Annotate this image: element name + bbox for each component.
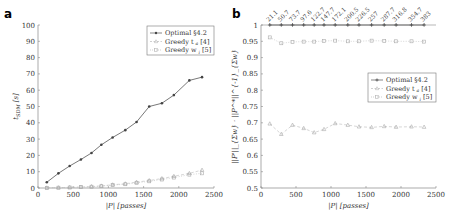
data-point [200, 168, 204, 171]
data-point [422, 125, 426, 128]
y-tick-label: 0.55 [242, 168, 258, 176]
x-tick-label: 2500 [205, 191, 223, 199]
top-tick-label: 21.1 [265, 8, 279, 22]
y-tick-label: 100 [22, 22, 35, 30]
x-tick-label: 1500 [135, 191, 153, 199]
y-tick-label: 70 [26, 70, 35, 78]
y-tick-label: 0 [31, 185, 35, 193]
y-tick-label: 0.85 [242, 70, 258, 78]
y-tick-label: 0.75 [242, 103, 258, 111]
y-tick-label: 0.5 [247, 185, 258, 193]
chart-panel-b: b050010001500200025000.50.550.60.650.70.… [231, 5, 445, 210]
x-tick-label: 2000 [392, 191, 410, 199]
legend-entry: Greedy w i [5] [165, 46, 211, 55]
data-point [333, 121, 337, 124]
data-point [111, 136, 114, 139]
y-tick-label: 0.8 [247, 87, 258, 95]
data-point [90, 152, 93, 155]
data-point [80, 158, 83, 161]
panel-label: a [4, 7, 12, 21]
y-tick-label: 50 [26, 103, 35, 111]
legend-entry: Greedy t a [4] [386, 85, 431, 94]
x-axis-label: |P| [passes] [106, 202, 147, 210]
data-point [161, 102, 164, 105]
chart-panel-a: a050010001500200025000102030405060708090… [4, 7, 223, 210]
legend: Optimal §4.2Greedy t a [4]Greedy w i [5] [147, 26, 214, 55]
data-point [357, 125, 361, 128]
figure: a050010001500200025000102030405060708090… [0, 0, 460, 223]
data-point [68, 165, 71, 168]
x-tick-label: 1000 [322, 191, 340, 199]
data-point [148, 105, 151, 108]
x-axis-label: |P| [passes] [328, 202, 369, 210]
data-point [57, 172, 60, 175]
y-tick-label: 0.9 [247, 54, 258, 62]
y-axis-label: tSDM[s] [12, 93, 21, 120]
x-tick-label: 500 [289, 191, 302, 199]
y-tick-label: 90 [26, 38, 35, 46]
y-tick-label: 20 [26, 152, 35, 160]
x-tick-label: 2000 [170, 191, 188, 199]
data-point [46, 181, 49, 184]
y-tick-label: 1 [254, 22, 258, 30]
y-tick-label: 0.6 [247, 152, 259, 160]
y-tick-label: 10 [26, 168, 35, 176]
data-point [100, 144, 103, 147]
x-tick-label: 500 [67, 191, 80, 199]
x-tick-label: 1500 [357, 191, 375, 199]
legend: Optimal §4.2Greedy t a [4]Greedy w i [5] [368, 73, 436, 102]
data-point [322, 127, 326, 130]
data-point [188, 79, 191, 82]
y-tick-label: 80 [26, 54, 35, 62]
legend-entry: Optimal §4.2 [386, 76, 428, 84]
y-tick-label: 40 [26, 119, 35, 127]
x-tick-label: 2500 [427, 191, 445, 199]
x-tick-label: 0 [36, 191, 40, 199]
data-point [382, 124, 386, 127]
data-point [291, 123, 295, 126]
data-point [135, 121, 138, 124]
x-tick-label: 0 [259, 191, 263, 199]
y-tick-label: 0.7 [247, 119, 258, 127]
data-point [410, 125, 414, 128]
legend-entry: Greedy w i [5] [386, 93, 432, 102]
panel-label: b [232, 7, 241, 21]
y-axis-label: ||P'||_{Σw} · ||P^*||^{-1}_{Σw} [231, 49, 239, 164]
data-point [124, 129, 127, 132]
legend-entry: Optimal §4.2 [165, 29, 207, 37]
y-tick-label: 0.95 [242, 38, 258, 46]
y-tick-label: 0.65 [242, 136, 258, 144]
data-point [201, 76, 204, 79]
data-point [173, 94, 176, 97]
x-tick-label: 1000 [99, 191, 117, 199]
y-tick-label: 30 [26, 136, 35, 144]
legend-entry: Greedy t a [4] [165, 38, 210, 47]
data-point [268, 122, 272, 125]
y-tick-label: 60 [26, 87, 35, 95]
